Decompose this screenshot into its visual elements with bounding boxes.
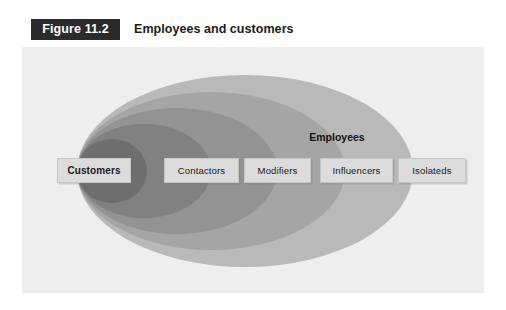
category-box-customers[interactable]: Customers — [57, 158, 131, 183]
category-label-influencers: Influencers — [332, 166, 380, 176]
diagram-panel: Employees Customers Contactors Modifiers… — [22, 47, 484, 293]
category-label-modifiers: Modifiers — [258, 166, 298, 176]
category-box-modifiers[interactable]: Modifiers — [244, 158, 311, 183]
category-label-customers: Customers — [67, 166, 120, 176]
figure-number-badge: Figure 11.2 — [31, 19, 120, 40]
figure-number-text: Figure 11.2 — [42, 23, 108, 36]
category-label-contactors: Contactors — [178, 166, 225, 176]
category-box-influencers[interactable]: Influencers — [320, 158, 393, 183]
employees-label: Employees — [287, 132, 387, 143]
category-box-isolateds[interactable]: Isolateds — [398, 158, 466, 183]
category-label-isolateds: Isolateds — [412, 166, 451, 176]
figure-title: Employees and customers — [134, 22, 294, 37]
category-box-contactors[interactable]: Contactors — [164, 158, 239, 183]
venn-diagram: Employees Customers Contactors Modifiers… — [22, 47, 484, 293]
figure-header: Figure 11.2 Employees and customers — [0, 0, 506, 47]
